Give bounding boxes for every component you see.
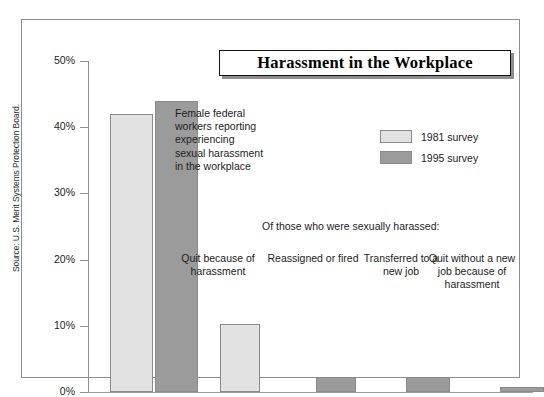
- annotation-main-block: Female federal workers reporting experie…: [175, 107, 267, 173]
- bar-reassigned-fired: [316, 377, 356, 392]
- bar-overall-1981: [110, 114, 153, 392]
- y-tick-label-0: 0%: [60, 385, 75, 397]
- y-axis-line: [88, 61, 89, 392]
- category-label-reassigned: Reassigned or fired: [267, 252, 359, 265]
- y-tick-label-40: 40%: [54, 120, 75, 132]
- source-caption: Source: U.S. Merit Systems Protection Bo…: [11, 88, 21, 288]
- bar-quit-harassment: [220, 324, 260, 392]
- y-tick-40: 40%: [80, 127, 89, 128]
- chart-frame: Harassment in the Workplace 1981 survey …: [21, 19, 520, 378]
- y-tick-label-30: 30%: [54, 186, 75, 198]
- category-label-quit-without-job: Quit without a new job because of harass…: [426, 252, 518, 292]
- y-tick-label-50: 50%: [54, 54, 75, 66]
- bar-quit-without-job: [500, 387, 544, 392]
- y-tick-20: 20%: [80, 260, 89, 261]
- x-axis-baseline: [88, 392, 533, 393]
- y-tick-label-20: 20%: [54, 253, 75, 265]
- annotation-subhead: Of those who were sexually harassed:: [262, 220, 439, 232]
- y-tick-label-10: 10%: [54, 319, 75, 331]
- category-label-quit-because: Quit because of harassment: [170, 252, 266, 278]
- bar-transferred-job: [406, 377, 450, 392]
- y-tick-30: 30%: [80, 193, 89, 194]
- y-tick-50: 50%: [80, 61, 89, 62]
- y-tick-10: 10%: [80, 326, 89, 327]
